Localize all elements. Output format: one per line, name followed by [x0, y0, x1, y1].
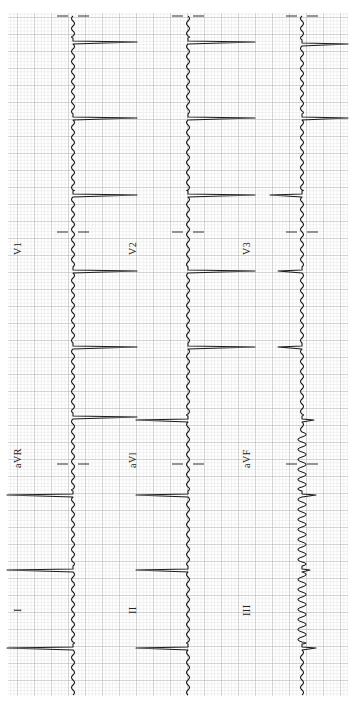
lead-label-III: III	[241, 605, 252, 617]
lead-label-I: I	[12, 608, 23, 612]
lead-label-aVR: aVR	[12, 448, 23, 468]
lead-label-aVL: aVl	[127, 452, 138, 468]
lead-label-V3: V3	[241, 242, 252, 255]
lead-label-V2: V2	[127, 242, 138, 255]
ecg-grid	[8, 13, 348, 696]
lead-label-aVF: aVF	[241, 449, 252, 468]
ecg-chart	[0, 0, 364, 703]
lead-label-II: II	[127, 606, 138, 614]
lead-label-V1: V1	[12, 242, 23, 255]
